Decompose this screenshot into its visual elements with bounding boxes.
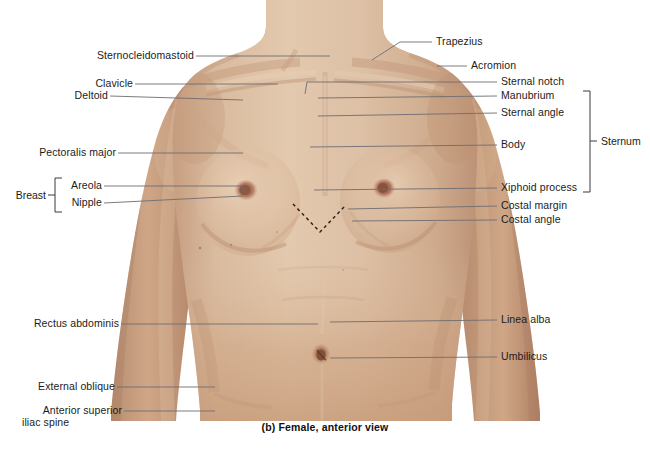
label-xiphoid-process[interactable]: Xiphoid process xyxy=(501,182,577,194)
group-label-sternum[interactable]: Sternum xyxy=(601,135,641,147)
label-acromion[interactable]: Acromion xyxy=(471,60,516,72)
anatomy-figure: Sternocleidomastoid Clavicle Deltoid Pec… xyxy=(0,0,650,453)
label-umbilicus[interactable]: Umbilicus xyxy=(501,351,547,363)
label-clavicle[interactable]: Clavicle xyxy=(0,78,133,90)
label-deltoid[interactable]: Deltoid xyxy=(0,90,108,102)
label-costal-margin[interactable]: Costal margin xyxy=(501,200,567,212)
torso xyxy=(165,0,485,425)
label-linea-alba[interactable]: Linea alba xyxy=(501,314,550,326)
label-pectoralis-major[interactable]: Pectoralis major xyxy=(0,147,116,159)
group-label-breast[interactable]: Breast xyxy=(0,189,46,201)
label-manubrium[interactable]: Manubrium xyxy=(501,90,554,102)
label-costal-angle[interactable]: Costal angle xyxy=(501,214,561,226)
figure-caption: (b) Female, anterior view xyxy=(0,421,650,433)
label-asis-line1: Anterior superior xyxy=(43,404,122,416)
label-sternal-notch[interactable]: Sternal notch xyxy=(501,76,564,88)
label-trapezius[interactable]: Trapezius xyxy=(436,36,483,48)
label-external-oblique[interactable]: External oblique xyxy=(0,381,115,393)
label-body[interactable]: Body xyxy=(501,139,525,151)
bracket-sternum xyxy=(583,91,597,192)
label-rectus-abdominis[interactable]: Rectus abdominis xyxy=(0,318,119,330)
label-sternocleidomastoid[interactable]: Sternocleidomastoid xyxy=(0,50,194,62)
label-sternal-angle[interactable]: Sternal angle xyxy=(501,107,564,119)
